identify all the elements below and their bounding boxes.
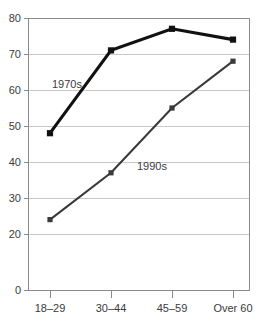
- x-label-over-60: Over 60: [213, 302, 252, 314]
- plot-frame: [28, 18, 250, 291]
- chart-canvas: 80 70 60 50 40 30 20 0 18–29 30–44 45–59…: [0, 0, 258, 323]
- data-point-1970s-30–44: [108, 47, 114, 53]
- line-chart: 80 70 60 50 40 30 20 0 18–29 30–44 45–59…: [0, 0, 258, 323]
- y-label-30: 30: [9, 192, 21, 204]
- data-point-1990s-30–44: [108, 170, 113, 175]
- data-point-1990s-Over 60: [230, 59, 235, 64]
- x-label-45-59: 45–59: [157, 302, 188, 314]
- y-label-70: 70: [9, 48, 21, 60]
- y-label-60: 60: [9, 84, 21, 96]
- x-label-30-44: 30–44: [96, 302, 127, 314]
- series-layer: [47, 26, 236, 223]
- y-label-50: 50: [9, 120, 21, 132]
- data-point-1990s-18–29: [47, 217, 52, 222]
- data-point-1970s-18–29: [47, 130, 53, 136]
- series-label-1970s: 1970s: [52, 78, 82, 90]
- y-label-40: 40: [9, 156, 21, 168]
- data-point-1990s-45–59: [169, 105, 174, 110]
- data-point-1970s-45–59: [169, 26, 175, 32]
- y-axis-labels: 80 70 60 50 40 30 20 0: [9, 12, 21, 296]
- series-annotations: 1970s 1990s: [52, 78, 167, 172]
- y-label-80: 80: [9, 12, 21, 24]
- y-tick-marks: [24, 19, 28, 291]
- x-axis-labels: 18–29 30–44 45–59 Over 60: [35, 302, 253, 314]
- y-label-20: 20: [9, 228, 21, 240]
- x-tick-marks: [51, 290, 234, 298]
- x-label-18-29: 18–29: [35, 302, 66, 314]
- y-label-0: 0: [15, 284, 21, 296]
- data-point-1970s-Over 60: [230, 37, 236, 43]
- series-label-1990s: 1990s: [137, 160, 167, 172]
